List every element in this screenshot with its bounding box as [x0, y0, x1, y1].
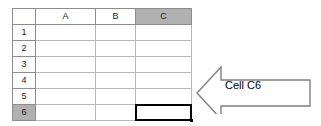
cell-b5[interactable] — [96, 89, 136, 105]
column-header-row: A B C — [13, 9, 192, 25]
cell-c6-selected[interactable] — [136, 105, 192, 121]
cell-a5[interactable] — [36, 89, 96, 105]
spreadsheet-grid: A B C 1 2 3 — [12, 8, 192, 121]
table-row: 3 — [13, 57, 192, 73]
table-row: 6 — [13, 105, 192, 121]
table-row: 2 — [13, 41, 192, 57]
cell-b6[interactable] — [96, 105, 136, 121]
callout-arrow-cell-c6: Cell C6 — [195, 60, 315, 114]
row-header-2[interactable]: 2 — [13, 41, 36, 57]
table-row: 4 — [13, 73, 192, 89]
screenshot-root: A B C 1 2 3 — [0, 0, 321, 126]
row-header-3[interactable]: 3 — [13, 57, 36, 73]
cell-b3[interactable] — [96, 57, 136, 73]
fill-handle[interactable] — [190, 119, 193, 122]
cell-a6[interactable] — [36, 105, 96, 121]
cell-a4[interactable] — [36, 73, 96, 89]
cell-a3[interactable] — [36, 57, 96, 73]
column-header-b[interactable]: B — [96, 9, 136, 25]
cell-c2[interactable] — [136, 41, 192, 57]
cell-c3[interactable] — [136, 57, 192, 73]
select-all-corner[interactable] — [13, 9, 36, 25]
table-row: 1 — [13, 25, 192, 41]
callout-label: Cell C6 — [225, 78, 305, 92]
cell-b2[interactable] — [96, 41, 136, 57]
cell-b1[interactable] — [96, 25, 136, 41]
row-header-1[interactable]: 1 — [13, 25, 36, 41]
selection-outline — [135, 104, 192, 121]
cell-a1[interactable] — [36, 25, 96, 41]
row-header-6[interactable]: 6 — [13, 105, 36, 121]
cell-c1[interactable] — [136, 25, 192, 41]
cell-b4[interactable] — [96, 73, 136, 89]
cell-c5[interactable] — [136, 89, 192, 105]
row-header-4[interactable]: 4 — [13, 73, 36, 89]
column-header-c[interactable]: C — [136, 9, 192, 25]
row-header-5[interactable]: 5 — [13, 89, 36, 105]
table-row: 5 — [13, 89, 192, 105]
cell-a2[interactable] — [36, 41, 96, 57]
cell-c4[interactable] — [136, 73, 192, 89]
column-header-a[interactable]: A — [36, 9, 96, 25]
